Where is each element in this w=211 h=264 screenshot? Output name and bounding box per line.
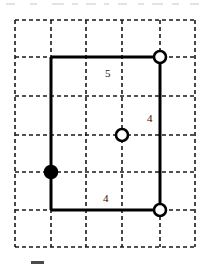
dashed-grid <box>15 20 195 247</box>
open-circle-center <box>116 129 128 141</box>
measure-label-top: 5 <box>105 68 111 79</box>
rectangle-shape <box>51 57 160 210</box>
filled-circle-left-edge <box>45 166 57 178</box>
open-circle-top-right <box>154 51 166 63</box>
measure-label-right: 4 <box>147 113 153 124</box>
figure-root: 5 4 4 <box>0 0 211 264</box>
measure-label-bottom: 4 <box>103 193 109 204</box>
open-circle-bottom-right <box>154 204 166 216</box>
geometry-diagram <box>0 0 211 264</box>
